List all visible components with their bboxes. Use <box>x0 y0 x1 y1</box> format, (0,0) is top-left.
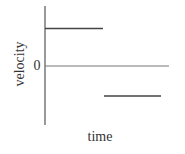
y-tick-zero: 0 <box>34 58 41 74</box>
y-axis-label: velocity <box>12 41 28 86</box>
velocity-time-chart: 0 velocity time <box>0 0 185 154</box>
x-axis-label: time <box>88 129 113 145</box>
